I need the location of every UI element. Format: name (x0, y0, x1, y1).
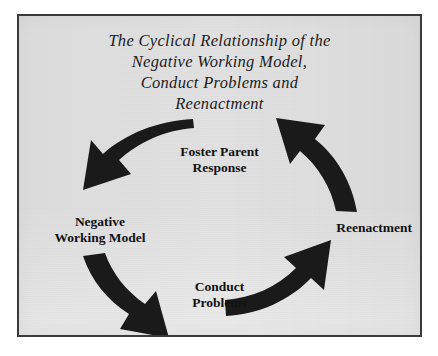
cycle-diagram: Foster Parent Response Negative Working … (19, 116, 420, 335)
node-label-conduct-problems: Conduct Problems (192, 279, 247, 311)
node-label-line: Foster Parent (180, 144, 259, 160)
node-label-line: Working Model (25, 230, 175, 246)
arrow-top-left-icon (83, 119, 194, 190)
figure-title: The Cyclical Relationship of the Negativ… (19, 30, 420, 114)
figure-title-line-2: Negative Working Model, (19, 51, 420, 72)
figure-title-line-4: Reenactment (19, 93, 420, 114)
node-label-foster-parent-response: Foster Parent Response (180, 144, 259, 176)
node-label-negative-working-model: Negative Working Model (25, 214, 175, 246)
figure-panel: The Cyclical Relationship of the Negativ… (17, 14, 422, 337)
node-label-line: Negative (25, 214, 175, 230)
node-label-line: Reenactment (336, 220, 412, 236)
figure-title-line-1: The Cyclical Relationship of the (19, 30, 420, 51)
arrow-bottom-left-icon (83, 253, 169, 335)
arrow-top-right-icon (276, 118, 357, 212)
figure-root: The Cyclical Relationship of the Negativ… (0, 0, 438, 356)
node-label-line: Problems (192, 295, 247, 311)
node-label-line: Response (180, 160, 259, 176)
node-label-line: Conduct (192, 279, 247, 295)
node-label-reenactment: Reenactment (336, 220, 412, 236)
figure-title-line-3: Conduct Problems and (19, 72, 420, 93)
